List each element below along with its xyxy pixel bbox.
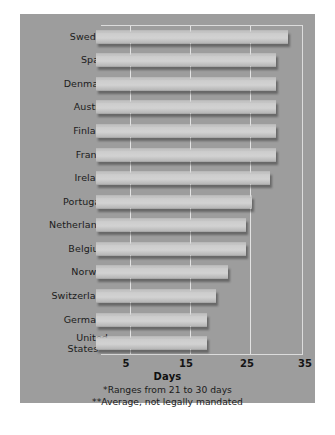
bar-rows: SwedenSpainDenmarkAustriaFinlandFranceIr… <box>20 25 315 355</box>
bar <box>96 54 276 67</box>
bar-container <box>96 266 228 279</box>
bar-container <box>96 148 276 161</box>
bar-container <box>96 30 288 43</box>
x-axis-title: Days <box>20 371 315 382</box>
bar <box>96 30 288 43</box>
bar-row: Sweden <box>20 25 315 49</box>
bar-container <box>96 290 216 303</box>
bar-row: France <box>20 143 315 167</box>
bar-container <box>96 54 276 67</box>
bar <box>96 290 216 303</box>
bar-row: Spain <box>20 49 315 73</box>
bar <box>96 125 276 138</box>
bar-container <box>96 101 276 114</box>
bar-container <box>96 195 252 208</box>
bar <box>96 101 276 114</box>
bar-row: Switzerland <box>20 284 315 308</box>
bar <box>96 172 270 185</box>
bar-container <box>96 172 270 185</box>
bar <box>96 337 207 350</box>
bar <box>96 219 246 232</box>
bar-row: Belgium <box>20 237 315 261</box>
bar-row: Netherlands <box>20 214 315 238</box>
bar <box>96 242 246 255</box>
footnote-average: **Average, not legally mandated <box>20 396 315 407</box>
bar-container <box>96 219 246 232</box>
x-tick-15: 15 <box>179 358 193 369</box>
bar <box>96 77 276 90</box>
x-tick-35: 35 <box>298 358 312 369</box>
bar <box>96 266 228 279</box>
bar-row: Finland <box>20 119 315 143</box>
x-tick-5: 5 <box>123 358 130 369</box>
x-tick-25: 25 <box>240 358 254 369</box>
bar-row: Denmark <box>20 72 315 96</box>
chart-panel: SwedenSpainDenmarkAustriaFinlandFranceIr… <box>20 14 315 403</box>
bar-row: Austria <box>20 96 315 120</box>
bar-row: Germany <box>20 308 315 332</box>
bar <box>96 313 207 326</box>
bar-container <box>96 337 207 350</box>
bar-container <box>96 77 276 90</box>
bar-container <box>96 313 207 326</box>
bar <box>96 195 252 208</box>
bar-row: Portugal* <box>20 190 315 214</box>
bar-row: Norway <box>20 261 315 285</box>
bar-container <box>96 125 276 138</box>
bar <box>96 148 276 161</box>
bar-container <box>96 242 246 255</box>
footnote-ranges: *Ranges from 21 to 30 days <box>20 384 315 395</box>
bar-row: Ireland <box>20 166 315 190</box>
bar-row: United States** <box>20 331 315 355</box>
